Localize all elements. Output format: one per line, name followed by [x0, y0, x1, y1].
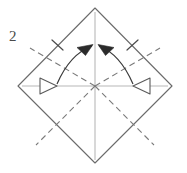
- fold-arrow-right-hollow-head: [133, 78, 150, 94]
- origami-step-figure: 2: [0, 0, 187, 173]
- crease-lower-right: [95, 86, 154, 145]
- fold-diagram: [0, 0, 187, 173]
- crease-lower-left: [36, 86, 95, 145]
- fold-arrow-left-solid-head: [77, 45, 93, 56]
- fold-arrow-left-hollow-head: [40, 78, 57, 94]
